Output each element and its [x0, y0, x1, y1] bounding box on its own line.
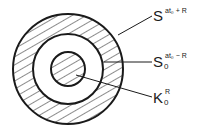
- label-inner-base: K: [153, 89, 163, 106]
- label-outer-sphere: Sat₀ + R: [153, 8, 185, 24]
- label-inner-sub: 0: [164, 99, 168, 107]
- label-inner-ball: KR0: [153, 90, 175, 106]
- label-outer-base: S: [153, 7, 163, 24]
- label-middle-sup: at₀ − R: [165, 52, 187, 59]
- label-outer-sup: at₀ + R: [165, 7, 187, 14]
- label-inner-sup: R: [165, 88, 170, 95]
- label-middle-sphere: Sat₀ − R0: [153, 54, 193, 70]
- label-middle-base: S: [153, 53, 163, 70]
- label-middle-sub: 0: [164, 63, 168, 71]
